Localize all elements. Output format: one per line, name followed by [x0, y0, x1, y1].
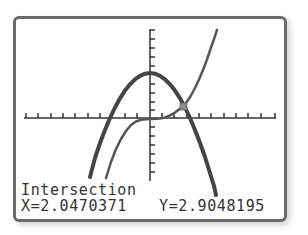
- x-value-readout: X=2.0470371: [21, 198, 127, 214]
- calculator-screenshot: Intersection X=2.0470371 Y=2.9048195: [0, 0, 308, 235]
- y-axis: [150, 29, 155, 181]
- intersection-label: Intersection: [21, 182, 137, 198]
- parabola-curve: [90, 73, 216, 195]
- intersection-cursor-icon: [180, 103, 187, 110]
- y-value-readout: Y=2.9048195: [159, 198, 265, 214]
- cubic-curve: [106, 30, 217, 178]
